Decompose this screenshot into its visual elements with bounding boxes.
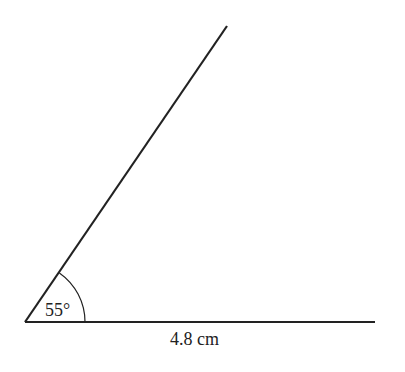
slanted-line xyxy=(25,26,227,322)
base-length-label: 4.8 cm xyxy=(170,329,219,349)
angle-diagram: 55° 4.8 cm xyxy=(0,0,405,372)
angle-label: 55° xyxy=(45,300,70,320)
